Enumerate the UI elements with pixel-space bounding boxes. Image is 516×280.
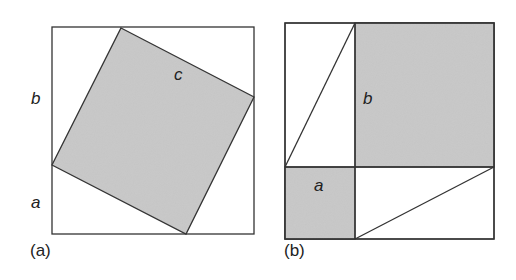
label-b-b: b <box>363 89 372 108</box>
caption-a: (a) <box>30 241 51 260</box>
pythagoras-diagram: b a c (a) b a (b) <box>0 0 516 280</box>
label-c: c <box>174 65 183 84</box>
caption-b: (b) <box>284 241 305 260</box>
label-a-a: a <box>31 193 40 212</box>
label-a-b: a <box>314 176 323 195</box>
figure-a: b a c (a) <box>30 27 254 260</box>
figure-b: b a (b) <box>284 23 494 260</box>
label-b-a: b <box>31 89 40 108</box>
